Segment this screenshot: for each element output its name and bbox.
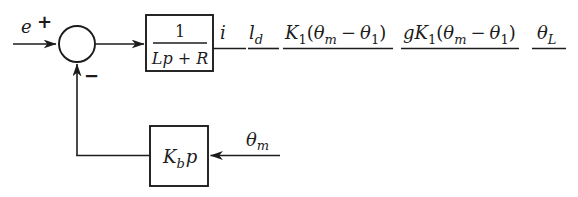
minus-sign: − <box>84 65 99 86</box>
signal-label-theta-l: θL <box>537 22 556 47</box>
signal-label-gk1: gK1(θm−θ1) <box>403 22 516 47</box>
signal-label-i: i <box>220 22 226 43</box>
signal-label-k1: K1(θm−θ1) <box>284 22 386 47</box>
signal-label-theta-m: θm <box>246 129 269 153</box>
diagram-svg: e + − 1 Lp + R i ld K1(θm−θ1) gK1(θm−θ1)… <box>0 0 578 197</box>
summing-junction <box>59 26 95 62</box>
block1-denominator: Lp + R <box>151 49 209 68</box>
block1-numerator: 1 <box>175 22 185 41</box>
plus-sign: + <box>37 11 52 32</box>
signal-label-ld: ld <box>249 22 263 47</box>
block-diagram-figure: e + − 1 Lp + R i ld K1(θm−θ1) gK1(θm−θ1)… <box>0 0 578 197</box>
input-signal-label: e <box>21 16 32 37</box>
